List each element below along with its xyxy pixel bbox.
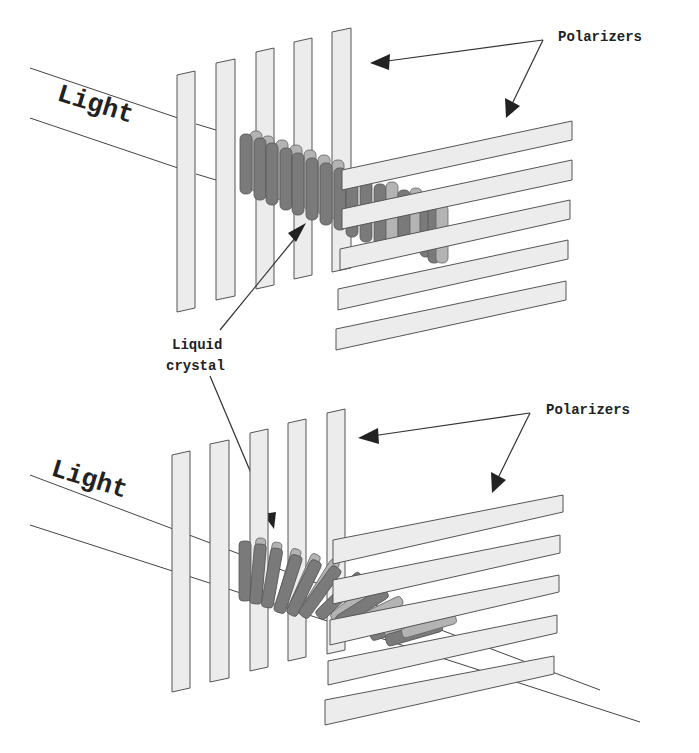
top-panel: Light Polarizers [30, 28, 642, 350]
liquid-label-line1: Liquid [172, 337, 222, 353]
top-light-label: Light [54, 79, 137, 130]
crystal-label-line2: crystal [166, 358, 225, 374]
bottom-polarizers-callout [358, 413, 530, 493]
top-polarizers-callout [370, 40, 543, 118]
lcd-diagram: Light Polarizers Liquid crystal [0, 0, 699, 753]
bottom-panel: Light Polarizers [30, 402, 640, 725]
top-polarizers-label: Polarizers [558, 29, 642, 45]
top-light-beam-lower [30, 118, 178, 168]
bottom-polarizers-label: Polarizers [546, 402, 630, 418]
